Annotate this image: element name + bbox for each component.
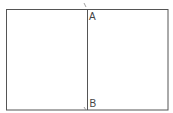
tick-mark-top bbox=[84, 3, 86, 7]
point-label-a: A bbox=[89, 11, 96, 22]
point-label-b: B bbox=[90, 98, 97, 109]
diagram-canvas: A B bbox=[0, 0, 173, 113]
